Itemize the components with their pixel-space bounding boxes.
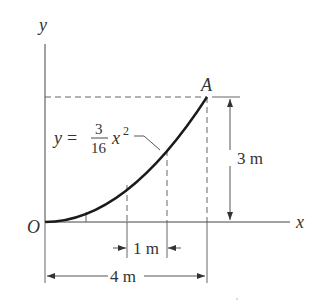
equation-leader-line [134, 136, 160, 150]
parabola-curve [45, 97, 207, 222]
parabola-diagram: 3 m 1 m 4 m y x O A y = 3 16 x 2 [0, 0, 321, 307]
equation-numerator: 3 [95, 121, 103, 137]
equation-variable: x [111, 128, 120, 148]
origin-label: O [27, 217, 40, 237]
dimension-4m-label: 4 m [110, 267, 136, 286]
y-axis-label: y [37, 15, 47, 35]
dimension-1m-label: 1 m [133, 239, 159, 258]
equation-lhs-y: y [52, 128, 62, 148]
curve-equation: y = 3 16 x 2 [52, 121, 129, 156]
equation-denominator: 16 [91, 140, 107, 156]
equation-equals: = [67, 128, 77, 148]
dimension-3m-label: 3 m [237, 149, 263, 168]
stray-dot [236, 298, 237, 299]
x-axis-label: x [295, 212, 304, 232]
equation-exponent: 2 [123, 124, 129, 138]
point-a-label: A [200, 75, 213, 95]
